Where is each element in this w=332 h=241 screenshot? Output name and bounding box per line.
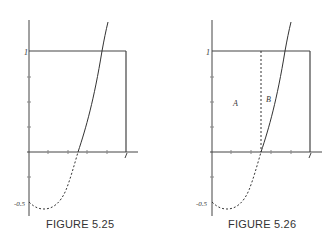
y-tick-1: 1 [24, 48, 28, 57]
y-tick-neg-half: -0.5 [196, 200, 208, 208]
figure-5-26: 1 -0.5 A B FIGURE 5.26 [166, 0, 332, 241]
curve-solid [261, 22, 291, 152]
curve-dashed [212, 152, 261, 209]
curve-solid [78, 22, 108, 152]
caption: FIGURE 5.25 [46, 218, 114, 230]
y-tick-1: 1 [206, 48, 210, 57]
region-label-b: B [266, 95, 271, 104]
y-tick-neg-half: -0.5 [14, 200, 26, 208]
plot-5-26: 1 -0.5 A B [166, 0, 332, 241]
caption: FIGURE 5.26 [228, 218, 296, 230]
region-label-a: A [232, 99, 238, 108]
curve-dashed [29, 152, 78, 209]
figure-5-25: 1 -0.5 FIGURE 5.25 [0, 0, 166, 241]
plot-5-25: 1 -0.5 [0, 0, 166, 241]
